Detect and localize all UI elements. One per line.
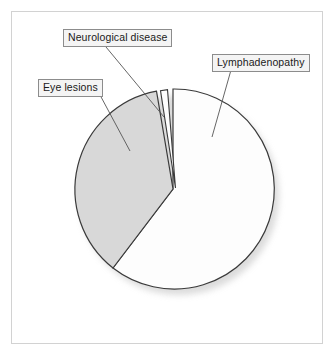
callout-label-lymphadenopathy[interactable]: Lymphadenopathy [212,54,310,72]
pie-chart-figure: Neurological disease Eye lesions Lymphad… [0,0,335,359]
callout-label-neurological-disease[interactable]: Neurological disease [63,29,172,47]
callout-label-eye-lesions[interactable]: Eye lesions [38,79,103,97]
